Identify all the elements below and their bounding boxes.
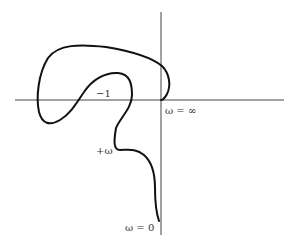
nyquist-curve [38,45,170,221]
nyquist-diagram: −1 ω = ∞ +ω ω = 0 [0,0,299,250]
omega-direction-label: +ω [96,145,113,156]
omega-infinity-label: ω = ∞ [165,105,196,116]
omega-zero-label: ω = 0 [125,222,154,233]
critical-point-label: −1 [96,88,111,99]
